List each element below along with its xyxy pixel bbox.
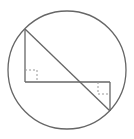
segments (25, 29, 110, 111)
segment-ad (25, 29, 110, 111)
right-angle-marker-b (25, 70, 37, 82)
right-angle-marker-c (98, 82, 110, 94)
geometry-diagram (0, 0, 134, 139)
diagram-svg (0, 0, 134, 139)
